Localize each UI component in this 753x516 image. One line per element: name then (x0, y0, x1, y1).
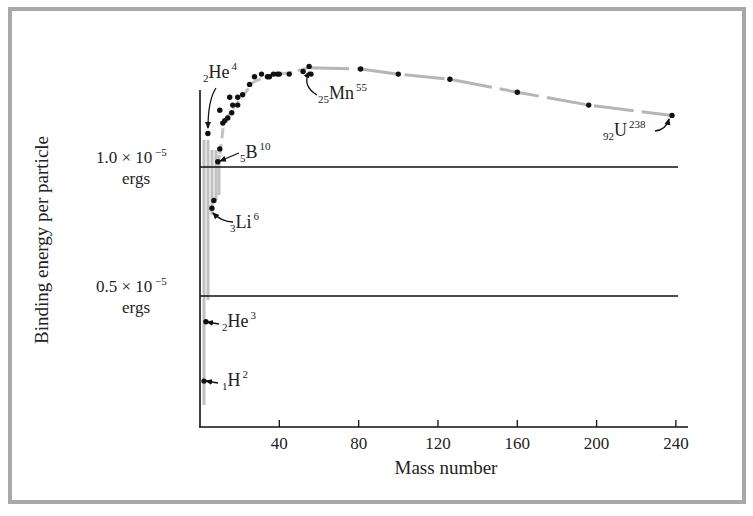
data-point (300, 69, 305, 74)
annotation-label: 25Mn55 (318, 81, 368, 105)
reference-label: 0.5 × 10 −5 (96, 275, 167, 296)
x-tick-label: 40 (271, 434, 288, 453)
data-point (217, 146, 222, 151)
reference-unit-label: ergs (122, 298, 150, 317)
data-point (211, 198, 216, 203)
data-point (227, 95, 232, 100)
gray-guide-lines (204, 68, 672, 405)
annotation-h2: 1H2 (206, 368, 248, 392)
data-point (306, 64, 311, 69)
data-point (215, 159, 220, 164)
annotation-label: 2He4 (203, 60, 238, 84)
data-point (358, 66, 363, 71)
annotations: 1H22He32He43Li65B1025Mn5592U238 (203, 60, 669, 392)
annotation-he4: 2He4 (203, 60, 238, 128)
annotation-arrow (213, 213, 233, 222)
data-point (247, 82, 252, 87)
binding-energy-chart: 1.0 × 10 −5ergs0.5 × 10 −5ergs 408012016… (0, 0, 753, 516)
data-point (225, 115, 230, 120)
data-point (515, 90, 520, 95)
annotation-he3: 2He3 (207, 309, 257, 333)
data-point (252, 74, 257, 79)
annotation-arrow (655, 119, 669, 131)
x-ticks: 4080120160200240 (271, 420, 689, 453)
reference-label: 1.0 × 10 −5 (96, 146, 167, 167)
data-point (217, 108, 222, 113)
data-point (230, 102, 235, 107)
data-point (209, 206, 214, 211)
x-axis-title: Mass number (395, 457, 499, 478)
annotation-label: 92U238 (603, 118, 646, 142)
data-points (201, 64, 674, 384)
x-tick-label: 240 (663, 434, 689, 453)
annotation-u238: 92U238 (603, 118, 669, 142)
annotation-arrow (206, 381, 218, 383)
x-tick-label: 120 (425, 434, 451, 453)
y-axis-title: Binding energy per particle (31, 136, 52, 344)
annotation-label: 1H2 (222, 368, 248, 392)
data-point (240, 92, 245, 97)
data-point (277, 71, 282, 76)
annotation-mn55: 25Mn55 (307, 72, 368, 105)
x-tick-label: 160 (505, 434, 531, 453)
data-point (259, 71, 264, 76)
annotation-label: 2He3 (222, 309, 257, 333)
annotation-b10: 5B10 (220, 140, 271, 164)
data-point (447, 77, 452, 82)
annotation-li6: 3Li6 (213, 210, 260, 234)
data-point (235, 102, 240, 107)
data-point (586, 102, 591, 107)
reference-unit-label: ergs (122, 169, 150, 188)
annotation-arrow (220, 153, 239, 161)
annotation-label: 3Li6 (230, 210, 260, 234)
annotation-arrow (207, 322, 219, 324)
data-point (287, 71, 292, 76)
annotation-arrow (208, 88, 216, 128)
data-point (396, 71, 401, 76)
x-tick-label: 200 (584, 434, 610, 453)
data-point (229, 110, 234, 115)
axes (199, 90, 688, 427)
data-point (235, 95, 240, 100)
data-point (669, 113, 674, 118)
data-point (201, 378, 206, 383)
annotation-label: 5B10 (240, 140, 271, 164)
x-tick-label: 80 (350, 434, 367, 453)
data-point (205, 131, 210, 136)
reference-lines: 1.0 × 10 −5ergs0.5 × 10 −5ergs (96, 146, 678, 317)
